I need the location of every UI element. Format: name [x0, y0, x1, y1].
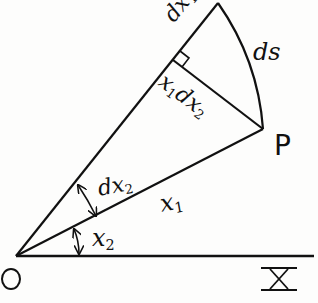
arc-ds: [218, 3, 263, 129]
label-dx2-base: dx: [96, 171, 126, 200]
axis-label-X: [261, 268, 297, 290]
radial-line-outer: [16, 3, 218, 256]
label-P-text: P: [274, 129, 291, 162]
label-ds: ds: [253, 40, 281, 64]
label-x2-sub: 2: [106, 237, 115, 253]
radial-line-x1: [16, 129, 263, 256]
origin-label-O: [2, 269, 20, 289]
label-x2-base: x: [92, 224, 106, 252]
label-dx2: dx2: [96, 172, 134, 201]
label-ds-text: ds: [253, 38, 281, 66]
label-P: P: [274, 132, 291, 160]
right-angle-marker: [180, 51, 189, 67]
label-x1: x1: [158, 188, 185, 218]
angle-arrow-dx2: [78, 185, 96, 216]
angle-arrow-x2: [74, 229, 79, 254]
label-x2: x2: [92, 226, 115, 252]
diagram-canvas: dx1 ds x1dx2 P dx2 x1 x2: [0, 0, 318, 303]
